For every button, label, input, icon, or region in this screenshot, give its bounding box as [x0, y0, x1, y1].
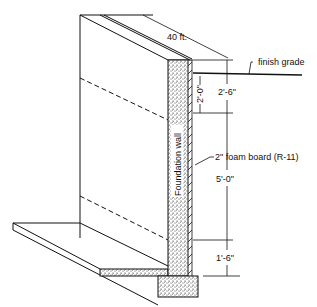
finish-grade-label: finish grade — [258, 57, 305, 67]
footing — [158, 276, 198, 297]
slab-section — [100, 269, 168, 276]
length-label: 40 ft. — [167, 32, 187, 42]
foam-label: 2" foam board (R-11) — [215, 152, 299, 162]
finish-grade-line — [193, 73, 302, 75]
dim-5-0: 5'-0" — [216, 174, 234, 184]
dim-1-6: 1'-6" — [216, 253, 234, 263]
wall-label: Foundation wall — [173, 133, 183, 196]
foam-leader — [195, 157, 214, 165]
foam-board — [188, 60, 192, 276]
dim-2-6: 2'-6" — [218, 87, 236, 97]
finish-grade-leader — [249, 62, 253, 74]
floor-slab — [13, 223, 168, 305]
foundation-diagram: finish grade 40 ft. 2'-6" 5'-0" 1'-6" 2'… — [0, 0, 317, 307]
dim-2-0: 2'-0" — [195, 85, 205, 103]
